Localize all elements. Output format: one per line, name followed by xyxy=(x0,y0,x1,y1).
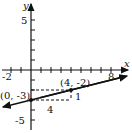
y-tick-neg5: -5 xyxy=(15,115,25,126)
point-4-neg2 xyxy=(69,88,73,92)
x-tick-8: 8 xyxy=(108,71,114,82)
coordinate-plane: y x 5 -5 -2 8 (4, -2) (0, -3) 1 4 xyxy=(0,0,132,133)
y-tick-5: 5 xyxy=(21,15,27,26)
rise-label: 1 xyxy=(75,91,81,102)
x-axis-label: x xyxy=(124,58,130,69)
y-axis xyxy=(31,4,35,130)
point-label-4-neg2: (4, -2) xyxy=(60,77,90,88)
run-label: 4 xyxy=(47,104,53,115)
y-axis-label: y xyxy=(22,0,29,11)
x-tick-neg2: -2 xyxy=(2,71,12,82)
point-label-0-neg3: (0, -3) xyxy=(0,90,30,101)
